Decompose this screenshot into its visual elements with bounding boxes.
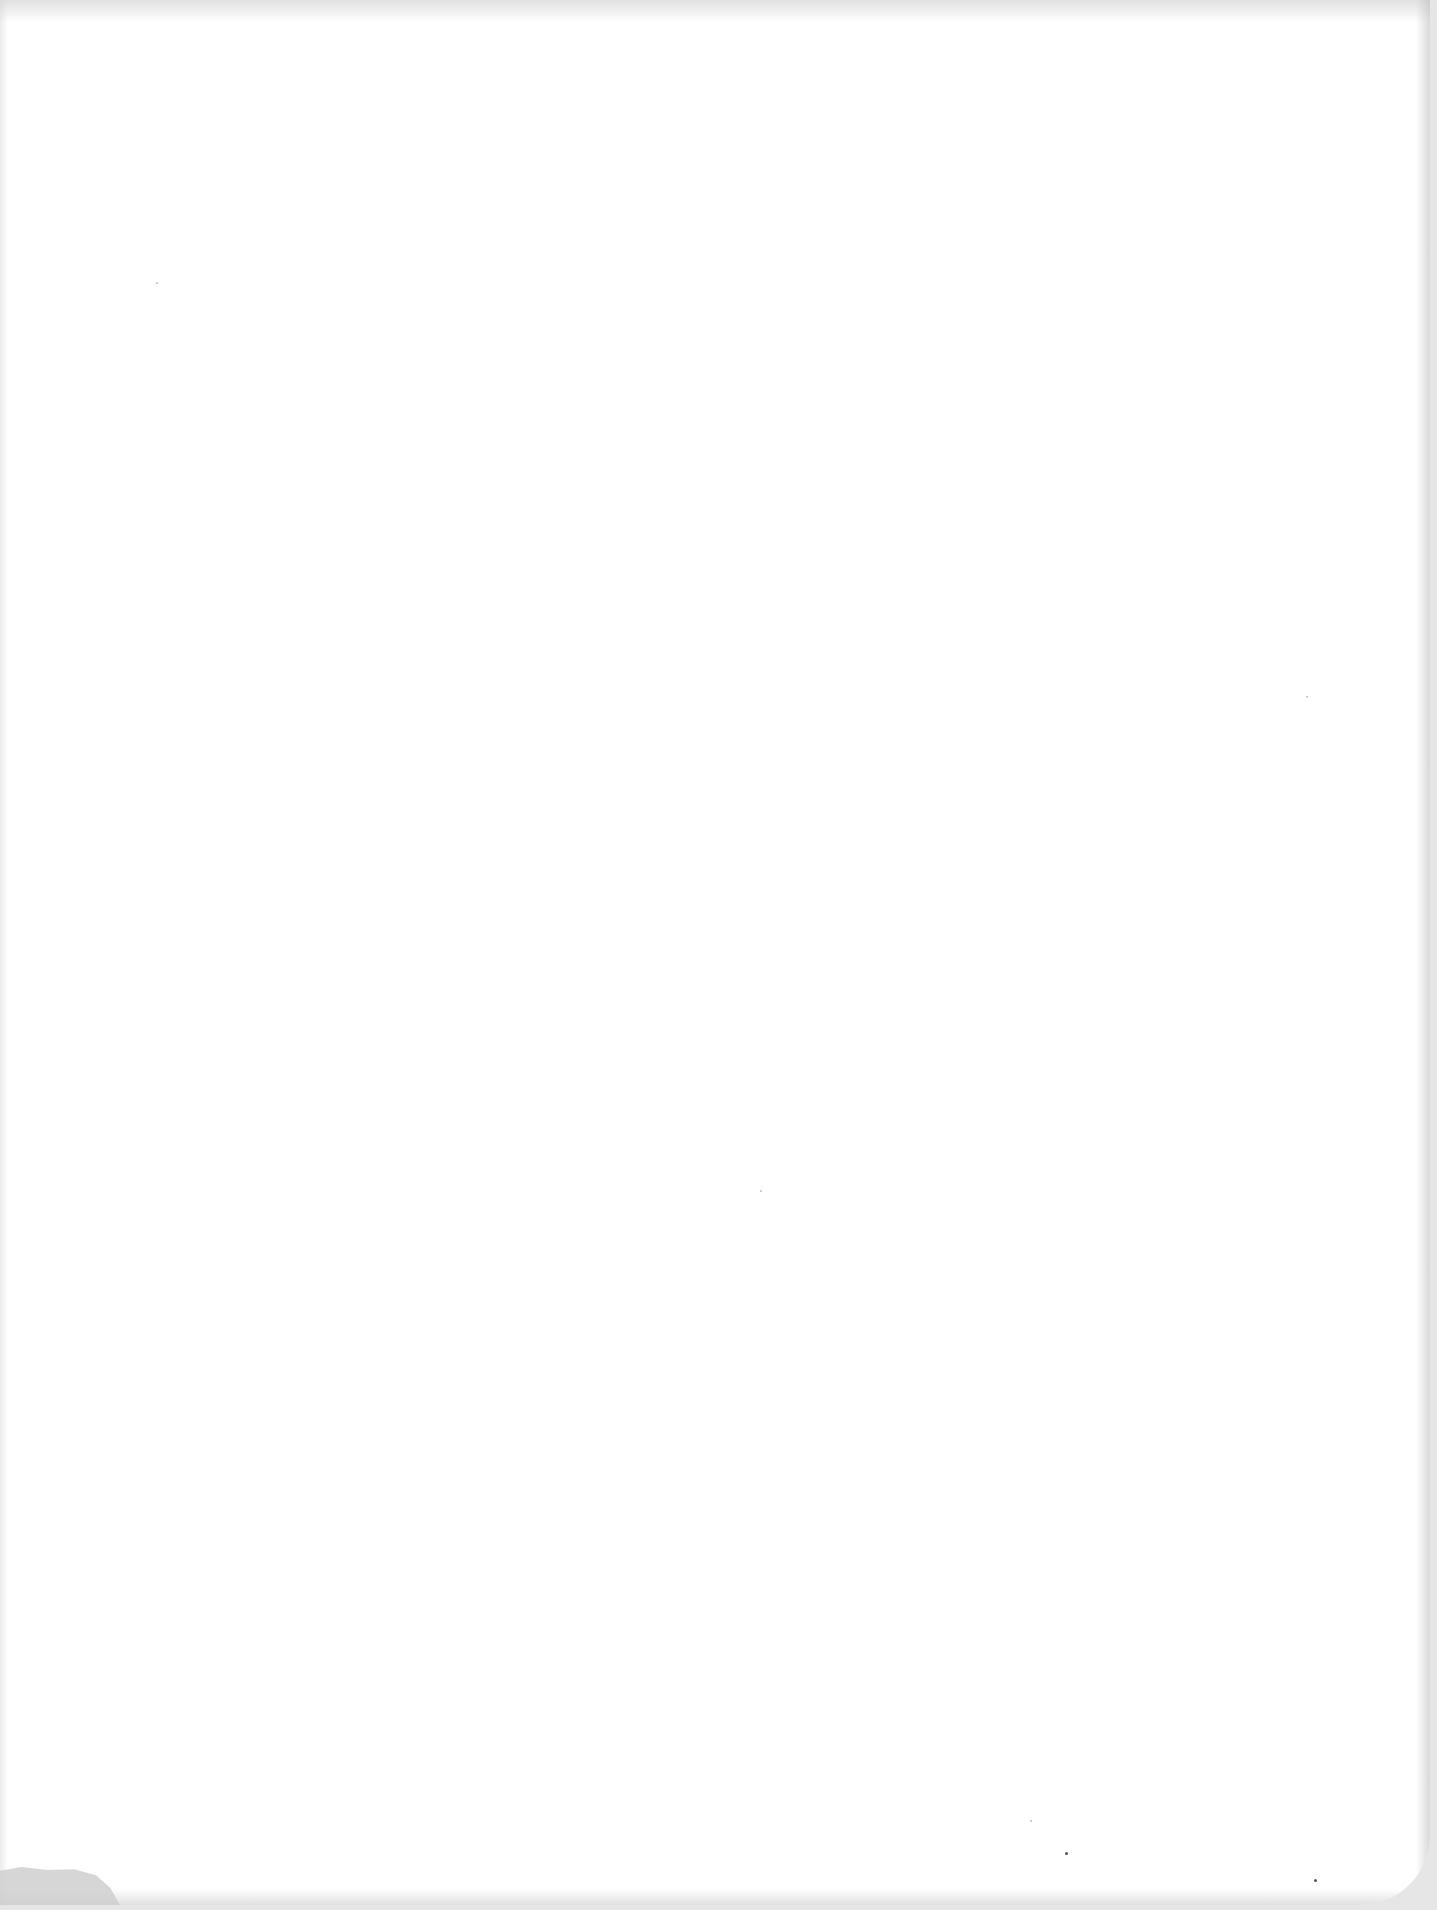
scan-speck bbox=[1030, 1820, 1032, 1822]
page-left-edge-shadow bbox=[0, 0, 8, 1905]
scan-speck bbox=[1065, 1852, 1068, 1855]
page-bottom-edge-shadow bbox=[0, 1889, 1430, 1905]
page-top-edge-shadow bbox=[0, 0, 1430, 22]
scan-speck bbox=[760, 1190, 762, 1192]
curled-corner bbox=[0, 1867, 120, 1905]
scan-speck bbox=[1306, 696, 1308, 698]
page-right-edge-shadow bbox=[1416, 0, 1430, 1905]
blank-page bbox=[0, 0, 1430, 1905]
scan-speck bbox=[156, 282, 158, 284]
scan-speck bbox=[1314, 1879, 1317, 1882]
